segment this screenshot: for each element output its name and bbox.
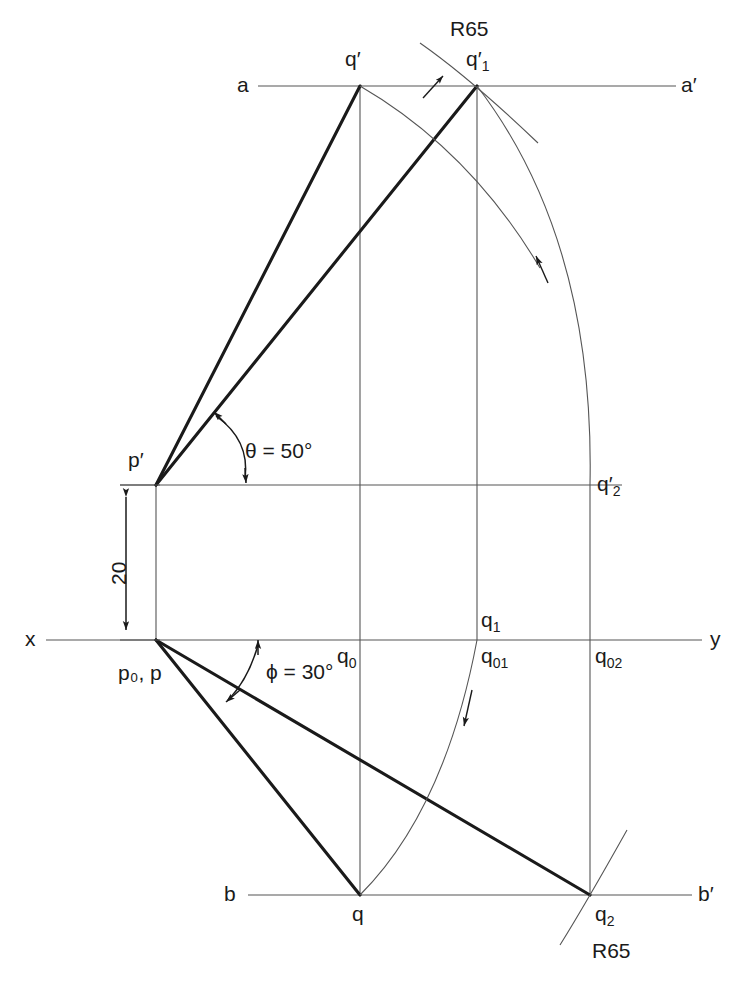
arc-q-to-q01 bbox=[360, 640, 477, 895]
label-q-prime-1-base: q′ bbox=[466, 47, 482, 70]
label-q2-base: q bbox=[595, 902, 607, 925]
arc-q-prime-1-to-q-prime-2 bbox=[477, 86, 590, 485]
arrow-lower-arc bbox=[464, 690, 472, 726]
label-q1-base: q bbox=[481, 608, 493, 631]
label-q02-base: q bbox=[595, 644, 607, 667]
arc-r65-bottom bbox=[560, 830, 627, 945]
label-q-prime-1-sub: 1 bbox=[482, 58, 490, 74]
label-x: x bbox=[25, 628, 36, 649]
label-p-prime: p′ bbox=[128, 449, 144, 470]
label-q01: q01 bbox=[481, 645, 508, 666]
label-y: y bbox=[710, 628, 721, 649]
label-q0-base: q bbox=[337, 644, 349, 667]
label-b-prime: b′ bbox=[698, 883, 714, 904]
label-q2: q2 bbox=[595, 903, 614, 924]
label-phi-angle: ϕ = 30° bbox=[266, 661, 333, 682]
label-q01-base: q bbox=[481, 644, 493, 667]
label-q: q bbox=[352, 903, 364, 924]
label-q-prime-2-base: q′ bbox=[597, 472, 613, 495]
engineering-drawing-canvas: a a′ b b′ x y p′ q′ q′1 q′2 p₀, p q q2 q… bbox=[0, 0, 745, 1000]
label-q02: q02 bbox=[595, 645, 622, 666]
label-r65-top: R65 bbox=[450, 18, 489, 39]
projection-figure bbox=[0, 0, 745, 1000]
label-q2-sub: 2 bbox=[607, 913, 615, 929]
label-q0: q0 bbox=[337, 645, 356, 666]
label-r65-bottom: R65 bbox=[592, 940, 631, 961]
line-p-q2 bbox=[156, 640, 590, 895]
label-q02-sub: 02 bbox=[607, 655, 623, 671]
label-q-prime: q′ bbox=[345, 48, 361, 69]
label-a-prime: a′ bbox=[681, 74, 697, 95]
label-theta-angle: θ = 50° bbox=[245, 440, 312, 461]
arc-q-prime-swing bbox=[360, 86, 540, 268]
label-p0-p-text: p₀, p bbox=[118, 661, 162, 684]
label-q01-sub: 01 bbox=[493, 655, 509, 671]
label-q0-sub: 0 bbox=[349, 655, 357, 671]
label-a: a bbox=[237, 74, 249, 95]
angle-arc-theta bbox=[216, 416, 246, 478]
line-p-prime-q-prime bbox=[156, 86, 360, 485]
arrow-upper-arc bbox=[536, 256, 548, 283]
label-b: b bbox=[224, 883, 236, 904]
label-q1: q1 bbox=[481, 609, 500, 630]
label-q-prime-2-sub: 2 bbox=[613, 483, 621, 499]
label-p0-p: p₀, p bbox=[118, 662, 162, 683]
label-dimension-20: 20 bbox=[108, 562, 129, 585]
arrow-r65-top-leader bbox=[423, 76, 443, 98]
arrow-theta-upper bbox=[214, 412, 226, 424]
label-q-prime-1: q′1 bbox=[466, 48, 489, 69]
label-q1-sub: 1 bbox=[493, 619, 501, 635]
label-q-prime-2: q′2 bbox=[597, 473, 620, 494]
arrow-phi-lower bbox=[226, 690, 240, 702]
line-p-prime-q-prime-1 bbox=[156, 86, 477, 485]
arrow-theta-lower bbox=[245, 468, 246, 483]
